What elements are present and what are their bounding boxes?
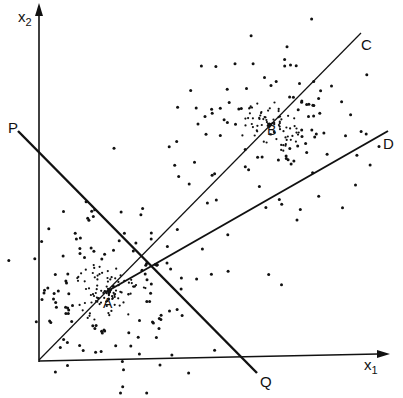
scatter-dot [287, 135, 289, 137]
scatter-dot [98, 273, 100, 275]
scatter-dot [168, 145, 171, 148]
scatter-dot [111, 276, 113, 278]
scatter-dot [135, 284, 137, 286]
scatter-dot [176, 106, 179, 109]
scatter-dot [285, 155, 288, 158]
scatter-dot [214, 65, 217, 68]
scatter-dot [92, 272, 94, 274]
x2-axis-arrowhead [35, 3, 43, 16]
scatter-dot [99, 303, 101, 305]
scatter-dot [265, 119, 267, 121]
scatter-dot [146, 278, 149, 281]
scatter-dot [294, 125, 296, 127]
scatter-dot [193, 161, 196, 164]
scatter-dot [100, 290, 102, 292]
scatter-dot [158, 317, 161, 320]
scatter-dot [88, 315, 90, 317]
scatter-dot [307, 115, 310, 118]
scatter-dot [312, 115, 315, 118]
scatter-dot [74, 232, 77, 235]
scatter-dot [93, 318, 95, 320]
scatter-dot [290, 163, 293, 166]
scatter-dot [195, 278, 198, 281]
scatter-dot [205, 133, 208, 136]
scatter-dot [213, 349, 216, 352]
scatter-dot [290, 139, 292, 141]
scatter-dot [298, 82, 301, 85]
scatter-dot [150, 238, 153, 241]
scatter-dot [282, 130, 284, 132]
scatter-dot [286, 45, 289, 48]
scatter-dot [79, 304, 81, 306]
scatter-dot [155, 336, 158, 339]
scatter-dot [107, 312, 109, 314]
scatter-dot [121, 360, 124, 363]
scatter-dot [295, 132, 297, 134]
scatter-dot [311, 104, 314, 107]
scatter-dot [252, 62, 255, 65]
scatter-dot [176, 308, 179, 311]
scatter-dot [277, 159, 280, 162]
scatter-dot [369, 164, 372, 167]
scatter-dot [175, 140, 178, 143]
scatter-dot [138, 319, 141, 322]
scatter-dot [95, 292, 97, 294]
scatter-dot [310, 129, 313, 132]
scatter-dot [119, 305, 121, 307]
scatter-dot [151, 320, 154, 323]
scatter-dot [330, 85, 333, 88]
scatter-dot [173, 164, 176, 167]
scatter-dot [93, 264, 95, 266]
scatter-dot [256, 125, 258, 127]
scatter-dot [106, 286, 108, 288]
scatter-dot [263, 141, 265, 143]
scatter-dot [301, 135, 304, 138]
scatter-dot [258, 185, 261, 188]
scatter-dot [130, 293, 132, 295]
scatter-dot [158, 327, 161, 330]
scatter-dot [279, 126, 281, 128]
scatter-dot [134, 241, 137, 244]
scatter-dot [340, 100, 343, 103]
scatter-dot [90, 301, 92, 303]
label-Q: Q [260, 373, 272, 390]
scatter-dot [280, 203, 283, 206]
scatter-dot [57, 289, 60, 292]
scatter-dot [226, 233, 229, 236]
scatter-dot [131, 282, 133, 284]
line-D [106, 131, 388, 292]
scatter-dot [227, 270, 230, 273]
scatter-dot [211, 112, 214, 115]
scatter-dot [117, 297, 119, 299]
scatter-dot [252, 117, 254, 119]
scatter-dot [122, 301, 124, 303]
scatter-dot [247, 168, 250, 171]
scatter-dot [54, 371, 57, 374]
scatter-dot [313, 135, 316, 138]
scatter-dot [211, 174, 214, 177]
scatter-dot [79, 252, 82, 255]
label-B: B [267, 122, 276, 138]
scatter-dot [66, 272, 69, 275]
scatter-dot [121, 291, 123, 293]
scatter-dot [106, 277, 108, 279]
scatter-dot [77, 276, 79, 278]
label-D: D [383, 135, 394, 152]
scatter-dot [267, 110, 269, 112]
scatter-dot [249, 112, 251, 114]
scatter-dot [176, 228, 179, 231]
scatter-dot [62, 338, 65, 341]
scatter-dot [67, 309, 70, 312]
scatter-dot [273, 101, 275, 103]
scatter-dot [322, 132, 325, 135]
scatter-dot [113, 147, 116, 150]
line-C [39, 33, 361, 360]
scatter-dot [109, 278, 111, 280]
scatter-dot [245, 87, 248, 90]
x1-axis [39, 354, 378, 361]
scatter-dot [280, 118, 282, 120]
scatter-dot [64, 279, 67, 282]
scatter-dot [127, 331, 130, 334]
scatter-dot [94, 276, 96, 278]
scatter-dot [115, 268, 117, 270]
